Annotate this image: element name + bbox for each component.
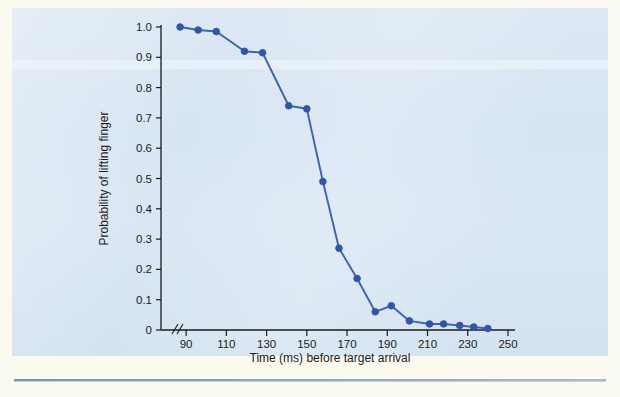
data-point — [485, 325, 492, 332]
y-tick-label: 0.4 — [136, 203, 153, 215]
data-point — [456, 322, 463, 329]
y-tick-label: 0.3 — [136, 233, 152, 245]
data-point — [195, 27, 202, 34]
x-tick-label: 90 — [180, 338, 193, 350]
y-axis-ticks: 00.10.20.30.40.50.60.70.80.91.0 — [136, 21, 161, 336]
y-tick-label: 0.7 — [136, 112, 152, 124]
x-tick-label: 110 — [217, 338, 235, 350]
data-point — [470, 324, 477, 331]
data-point — [259, 49, 266, 56]
data-point — [241, 48, 248, 55]
data-point — [177, 24, 184, 31]
y-tick-label: 1.0 — [136, 21, 152, 33]
x-tick-label: 230 — [458, 338, 477, 350]
data-point — [336, 245, 343, 252]
data-point — [426, 321, 433, 328]
y-tick-label: 0.6 — [136, 142, 152, 154]
y-tick-label: 0.9 — [136, 51, 152, 63]
x-axis-ticks: 90110130150170190210230250 — [180, 330, 518, 350]
y-axis-label: Probability of lifting finger — [97, 111, 111, 245]
y-tick-label: 0.2 — [136, 263, 152, 275]
chart-plot: 00.10.20.30.40.50.60.70.80.91.0 90110130… — [0, 0, 620, 397]
x-tick-label: 210 — [418, 338, 437, 350]
y-tick-label: 0.8 — [136, 82, 152, 94]
data-point — [285, 102, 292, 109]
x-tick-label: 170 — [337, 338, 356, 350]
data-markers — [177, 24, 491, 332]
figure-root: 00.10.20.30.40.50.60.70.80.91.0 90110130… — [0, 0, 620, 397]
x-axis-label: Time (ms) before target arrival — [250, 351, 411, 365]
data-point — [354, 275, 361, 282]
data-point — [304, 106, 311, 113]
x-tick-label: 190 — [378, 338, 397, 350]
data-point — [440, 321, 447, 328]
y-tick-label: 0 — [146, 324, 152, 336]
y-tick-label: 0.5 — [136, 173, 152, 185]
x-tick-label: 130 — [257, 338, 276, 350]
x-axis-break-icon — [172, 324, 183, 334]
x-tick-label: 250 — [498, 338, 517, 350]
data-point — [320, 178, 327, 185]
data-point — [406, 318, 413, 325]
data-point — [388, 302, 395, 309]
data-point — [213, 28, 220, 35]
data-point — [372, 309, 379, 316]
footer-rule-shadow — [14, 381, 606, 382]
y-tick-label: 0.1 — [136, 294, 152, 306]
data-line — [180, 27, 488, 328]
x-tick-label: 150 — [297, 338, 316, 350]
